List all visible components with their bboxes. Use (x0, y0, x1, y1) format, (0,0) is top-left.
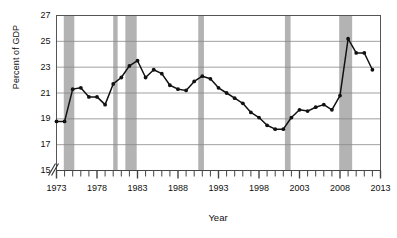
data-point-marker (168, 83, 172, 87)
data-point-marker (209, 77, 213, 81)
data-point-marker (290, 116, 294, 120)
data-point-marker (257, 116, 261, 120)
data-point-marker (184, 89, 188, 93)
data-point-marker (71, 87, 75, 91)
data-point-marker (127, 64, 131, 68)
data-point-marker (330, 108, 334, 112)
data-point-marker (273, 127, 277, 131)
data-point-marker (225, 91, 229, 95)
data-point-marker (136, 59, 140, 63)
data-point-marker (217, 86, 221, 90)
data-point-marker (87, 95, 91, 99)
data-point-marker (63, 120, 67, 124)
data-point-marker (249, 110, 253, 114)
data-point-marker (233, 96, 237, 100)
data-point-marker (79, 86, 83, 90)
data-point-marker (354, 51, 358, 55)
data-point-marker (55, 120, 59, 124)
data-point-marker (346, 37, 350, 41)
data-point-marker (322, 103, 326, 107)
data-point-marker (192, 79, 196, 83)
data-point-marker (200, 74, 204, 78)
data-point-marker (119, 76, 123, 80)
data-point-marker (371, 68, 375, 72)
data-point-marker (103, 103, 107, 107)
data-point-marker (314, 105, 318, 109)
data-point-marker (281, 127, 285, 131)
plot-area (0, 0, 397, 238)
data-point-marker (338, 94, 342, 98)
data-point-marker (160, 72, 164, 76)
data-point-marker (144, 76, 148, 80)
chart-figure: Percent of GDP Year 15171921232527 19731… (0, 0, 397, 238)
data-point-marker (265, 123, 269, 127)
data-point-marker (95, 95, 99, 99)
data-point-marker (241, 101, 245, 105)
data-point-marker (306, 109, 310, 113)
data-point-marker (111, 82, 115, 86)
data-point-marker (152, 68, 156, 72)
data-point-marker (176, 87, 180, 91)
data-point-marker (362, 51, 366, 55)
data-point-marker (298, 108, 302, 112)
data-series-line (57, 39, 373, 129)
